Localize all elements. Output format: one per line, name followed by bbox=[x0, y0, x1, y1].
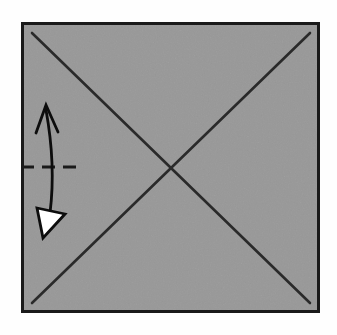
origami-diagram-canvas bbox=[0, 0, 337, 335]
fold-diagram-svg bbox=[0, 0, 337, 335]
